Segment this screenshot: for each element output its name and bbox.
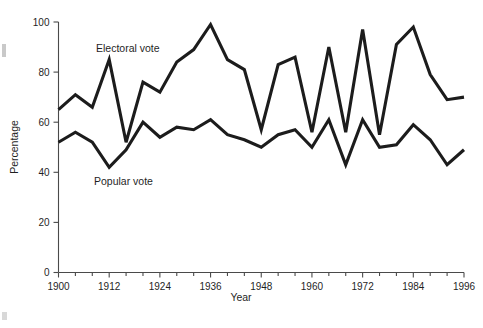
y-axis-tick-label: 20 <box>38 217 50 228</box>
scan-artifact-top <box>2 44 6 57</box>
x-axis-tick-label: 1924 <box>149 281 172 292</box>
y-axis-tick-label: 60 <box>38 117 50 128</box>
annotation-electoral-vote: Electoral vote <box>96 42 160 54</box>
y-axis-tick-labels: 020406080100 <box>33 17 50 279</box>
x-axis-tick-label: 1936 <box>199 281 222 292</box>
y-axis-tick-label: 80 <box>38 67 50 78</box>
scan-artifact-bottom <box>2 312 7 320</box>
x-axis-tick-label: 1912 <box>98 281 121 292</box>
y-axis-ticks <box>54 22 59 273</box>
x-axis-title: Year <box>230 291 252 303</box>
x-axis-tick-label: 1948 <box>250 281 273 292</box>
y-axis: 020406080100 <box>33 17 59 279</box>
x-axis-tick-label: 1960 <box>301 281 324 292</box>
x-axis-tick-label: 1972 <box>352 281 375 292</box>
y-axis-title: Percentage <box>8 120 20 174</box>
x-axis-tick-label: 1900 <box>47 281 70 292</box>
y-axis-tick-label: 40 <box>38 167 50 178</box>
line-chart-canvas: 020406080100 190019121924193619481960197… <box>0 0 483 328</box>
annotation-popular-vote: Popular vote <box>94 175 153 187</box>
x-axis-tick-labels: 190019121924193619481960197219841996 <box>47 281 475 292</box>
y-axis-tick-label: 0 <box>44 267 50 278</box>
x-axis: 190019121924193619481960197219841996 <box>47 273 475 292</box>
x-axis-tick-label: 1984 <box>402 281 425 292</box>
chart-figure: 020406080100 190019121924193619481960197… <box>0 0 483 328</box>
y-axis-tick-label: 100 <box>33 17 50 28</box>
x-axis-tick-label: 1996 <box>453 281 476 292</box>
x-axis-ticks <box>59 273 465 278</box>
